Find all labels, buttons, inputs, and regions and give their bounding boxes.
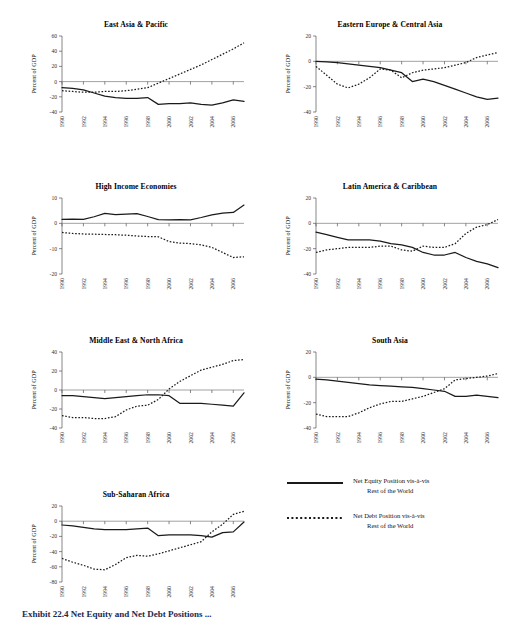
y-tick-label: -40 (50, 549, 58, 555)
x-tick-label: 1994 (356, 432, 362, 444)
chart-title: East Asia & Pacific (14, 20, 258, 29)
series-line-solid (316, 379, 498, 397)
legend-item-net-equity: Net Equity Position vis-à-vis Rest of th… (285, 476, 510, 495)
x-tick-label: 2000 (166, 116, 172, 128)
x-tick-label: 1996 (123, 432, 129, 444)
x-tick-label: 1998 (399, 432, 405, 444)
x-tick-label: 2006 (484, 432, 490, 444)
x-tick-label: 1998 (399, 278, 405, 290)
y-tick-label: 0 (54, 387, 57, 393)
legend-swatch-solid-line (285, 478, 345, 488)
x-tick-label: 1996 (123, 116, 129, 128)
series-line-solid (316, 61, 498, 99)
y-tick-label: 0 (54, 220, 57, 226)
y-tick-label: 20 (51, 368, 57, 374)
x-tick-label: 1992 (81, 116, 87, 128)
series-line-dotted (62, 511, 244, 570)
chart-panel-high-income-economies: High Income Economies 100-10-20199019921… (14, 182, 258, 320)
y-axis-label: Percent of GDP (284, 216, 291, 256)
y-axis-label: Percent of GDP (30, 370, 37, 410)
x-tick-label: 2000 (166, 432, 172, 444)
x-tick-label: 2000 (166, 586, 172, 598)
x-tick-label: 2002 (188, 116, 194, 128)
x-tick-label: 2004 (463, 116, 469, 128)
x-tick-label: 1990 (59, 432, 65, 444)
chart-panel-latin-america-caribbean: Latin America & Caribbean 200-20-4019901… (268, 182, 512, 320)
y-tick-label: 0 (54, 79, 57, 85)
chart-panel-sub-saharan-africa: Sub-Saharan Africa 200-20-40-60-80199019… (14, 490, 258, 623)
x-tick-label: 2000 (166, 278, 172, 290)
x-tick-label: 2004 (463, 432, 469, 444)
x-tick-label: 1992 (81, 278, 87, 290)
chart-panel-eastern-europe-central-asia: Eastern Europe & Central Asia 200-20-401… (268, 20, 512, 158)
chart-plot-area: 200-20-401990199219941996199820002002200… (268, 30, 512, 158)
legend-label-line2: Rest of the World (353, 486, 429, 496)
x-tick-label: 1994 (102, 116, 108, 128)
x-tick-label: 2006 (484, 116, 490, 128)
y-tick-label: 60 (51, 33, 57, 39)
x-tick-label: 2004 (209, 586, 215, 598)
x-tick-label: 1994 (102, 278, 108, 290)
chart-plot-area: 200-20-40-60-801990199219941996199820002… (14, 500, 258, 623)
series-line-dotted (316, 52, 498, 87)
y-tick-label: -20 (304, 400, 312, 406)
x-tick-label: 1994 (356, 278, 362, 290)
chart-svg: 6040200-20-40199019921994199619982000200… (14, 30, 258, 158)
x-tick-label: 2006 (230, 116, 236, 128)
y-tick-label: 40 (51, 48, 57, 54)
y-tick-label: 40 (51, 349, 57, 355)
x-tick-label: 2000 (420, 278, 426, 290)
y-tick-label: -60 (50, 564, 58, 570)
figure-legend: Net Equity Position vis-à-vis Rest of th… (285, 476, 510, 546)
x-tick-label: 1990 (59, 586, 65, 598)
x-tick-label: 1998 (145, 278, 151, 290)
legend-label-line2: Rest of the World (353, 521, 425, 531)
series-line-dotted (62, 232, 244, 257)
x-tick-label: 1996 (123, 586, 129, 598)
x-tick-label: 1998 (399, 116, 405, 128)
x-tick-label: 1992 (81, 432, 87, 444)
x-tick-label: 1998 (145, 432, 151, 444)
x-tick-label: 2004 (209, 116, 215, 128)
chart-plot-area: 200-20-401990199219941996199820002002200… (268, 346, 512, 474)
legend-label-line1: Net Debt Position vis-à-vis (353, 511, 425, 521)
y-tick-label: 10 (51, 195, 57, 201)
chart-plot-area: 40200-20-4019901992199419961998200020022… (14, 346, 258, 474)
chart-title: High Income Economies (14, 182, 258, 191)
chart-panel-east-asia-pacific: East Asia & Pacific 6040200-20-401990199… (14, 20, 258, 158)
x-tick-label: 1992 (81, 586, 87, 598)
y-tick-label: -40 (304, 425, 312, 431)
x-tick-label: 1992 (335, 432, 341, 444)
series-line-dotted (62, 43, 244, 92)
chart-title: South Asia (268, 336, 512, 345)
figure-page: East Asia & Pacific 6040200-20-401990199… (0, 0, 518, 623)
x-tick-label: 1992 (335, 116, 341, 128)
legend-label-net-equity: Net Equity Position vis-à-vis Rest of th… (345, 476, 429, 495)
x-tick-label: 2002 (188, 432, 194, 444)
series-line-dotted (316, 220, 498, 253)
chart-svg: 200-20-40-60-801990199219941996199820002… (14, 500, 258, 623)
y-tick-label: 20 (51, 503, 57, 509)
legend-swatch-dotted-line (285, 513, 345, 523)
legend-label-net-debt: Net Debt Position vis-à-vis Rest of the … (345, 511, 425, 530)
chart-svg: 200-20-401990199219941996199820002002200… (268, 30, 512, 158)
x-tick-label: 2004 (463, 278, 469, 290)
x-tick-label: 1990 (313, 432, 319, 444)
x-tick-label: 1996 (123, 278, 129, 290)
y-tick-label: -40 (304, 271, 312, 277)
x-tick-label: 1996 (377, 432, 383, 444)
x-tick-label: 1994 (356, 116, 362, 128)
x-tick-label: 1996 (377, 278, 383, 290)
y-tick-label: -20 (50, 533, 58, 539)
chart-plot-area: 200-20-401990199219941996199820002002200… (268, 192, 512, 320)
y-tick-label: -40 (304, 109, 312, 115)
chart-title: Middle East & North Africa (14, 336, 258, 345)
chart-plot-area: 100-10-201990199219941996199820002002200… (14, 192, 258, 320)
y-tick-label: 20 (305, 349, 311, 355)
x-tick-label: 1990 (313, 278, 319, 290)
chart-title: Latin America & Caribbean (268, 182, 512, 191)
chart-plot-area: 6040200-20-40199019921994199619982000200… (14, 30, 258, 158)
y-axis-label: Percent of GDP (284, 54, 291, 94)
chart-title: Eastern Europe & Central Asia (268, 20, 512, 29)
x-tick-label: 2000 (420, 116, 426, 128)
